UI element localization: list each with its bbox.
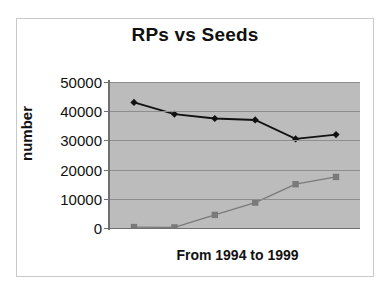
y-axis-tickmark — [104, 111, 109, 112]
data-point-marker — [292, 135, 299, 142]
y-axis-tickmark — [104, 199, 109, 200]
data-point-marker — [131, 224, 137, 228]
chart-screenshot: RPs vs Seeds number 50000400003000020000… — [0, 0, 390, 293]
series-line — [134, 102, 336, 138]
y-axis-tick-label: 40000 — [44, 103, 102, 120]
y-axis-tickmark — [104, 82, 109, 83]
gridline — [110, 82, 360, 83]
y-axis-tick-label: 0 — [44, 220, 102, 237]
x-axis-label: From 1994 to 1999 — [105, 247, 370, 263]
plot-area — [110, 82, 360, 228]
y-axis-tickmark — [104, 170, 109, 171]
series-line — [134, 177, 336, 228]
data-point-marker — [211, 115, 218, 122]
data-point-marker — [212, 212, 218, 218]
y-axis-tick-label: 20000 — [44, 161, 102, 178]
gridline — [110, 111, 360, 112]
gridline — [110, 140, 360, 141]
data-point-marker — [292, 181, 298, 187]
y-axis-tickmark — [104, 140, 109, 141]
y-axis-label: number — [18, 89, 35, 179]
data-point-marker — [130, 99, 137, 106]
data-point-marker — [332, 131, 339, 138]
data-point-marker — [333, 174, 339, 180]
x-axis-line — [108, 228, 360, 229]
y-axis-tick-label: 10000 — [44, 190, 102, 207]
gridline — [110, 199, 360, 200]
y-axis-tick-label: 30000 — [44, 132, 102, 149]
data-point-marker — [252, 199, 258, 205]
chart-title: RPs vs Seeds — [16, 24, 374, 46]
y-axis-tickmark — [104, 228, 109, 229]
y-axis-tick-label: 50000 — [44, 74, 102, 91]
gridline — [110, 170, 360, 171]
data-point-marker — [252, 116, 259, 123]
series-layer — [110, 82, 360, 228]
data-point-marker — [171, 224, 177, 228]
y-axis-tick-labels: 50000400003000020000100000 — [44, 82, 106, 228]
